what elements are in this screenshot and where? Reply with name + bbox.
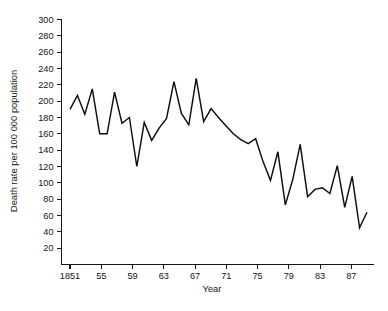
y-tick-label: 60 xyxy=(43,211,53,221)
x-tick-label: 75 xyxy=(252,271,262,281)
y-tick-label: 280 xyxy=(38,31,53,41)
y-tick-label: 100 xyxy=(38,178,53,188)
y-tick-label: 260 xyxy=(38,47,53,57)
y-tick-label: 140 xyxy=(38,145,53,155)
x-axis-title: Year xyxy=(203,283,222,294)
x-axis-ticks: 1851555963677175798387 xyxy=(60,265,357,282)
axes xyxy=(62,20,375,265)
y-tick-label: 200 xyxy=(38,96,53,106)
chart-figure: Death rate per 100 000 population 204060… xyxy=(0,0,388,311)
y-tick-label: 40 xyxy=(43,227,53,237)
y-tick-label: 20 xyxy=(43,243,53,253)
x-tick-label: 87 xyxy=(346,271,356,281)
x-tick-label: 55 xyxy=(96,271,106,281)
x-tick-label: 83 xyxy=(315,271,325,281)
x-tick-label: 79 xyxy=(284,271,294,281)
y-axis-ticks: 2040608010012014016018020022024026028030… xyxy=(38,15,61,254)
x-tick-label: 67 xyxy=(190,271,200,281)
x-tick-label: 71 xyxy=(221,271,231,281)
y-tick-label: 160 xyxy=(38,129,53,139)
y-tick-label: 240 xyxy=(38,64,53,74)
line-chart: Death rate per 100 000 population 204060… xyxy=(0,0,388,311)
data-series-line xyxy=(70,78,367,227)
y-tick-label: 300 xyxy=(38,15,53,25)
x-tick-label: 1851 xyxy=(60,271,80,281)
y-tick-label: 180 xyxy=(38,113,53,123)
x-tick-label: 63 xyxy=(159,271,169,281)
y-tick-label: 120 xyxy=(38,162,53,172)
x-tick-label: 59 xyxy=(127,271,137,281)
y-axis-title: Death rate per 100 000 population xyxy=(8,70,19,212)
y-tick-label: 80 xyxy=(43,194,53,204)
y-tick-label: 220 xyxy=(38,80,53,90)
